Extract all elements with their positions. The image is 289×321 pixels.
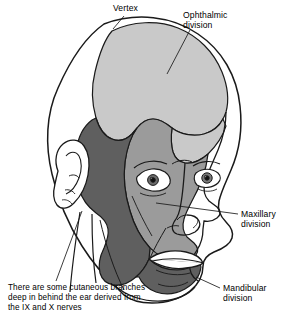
label-mandibular-division: Mandibular division	[223, 283, 267, 303]
head-dermatome-diagram	[0, 0, 289, 321]
label-ophthalmic-division: Ophthalmic division	[183, 10, 227, 30]
label-vertex: Vertex	[113, 3, 138, 13]
label-maxillary-division: Maxillary division	[241, 209, 276, 229]
caption-text: There are some cutaneous branches deep i…	[8, 283, 145, 312]
